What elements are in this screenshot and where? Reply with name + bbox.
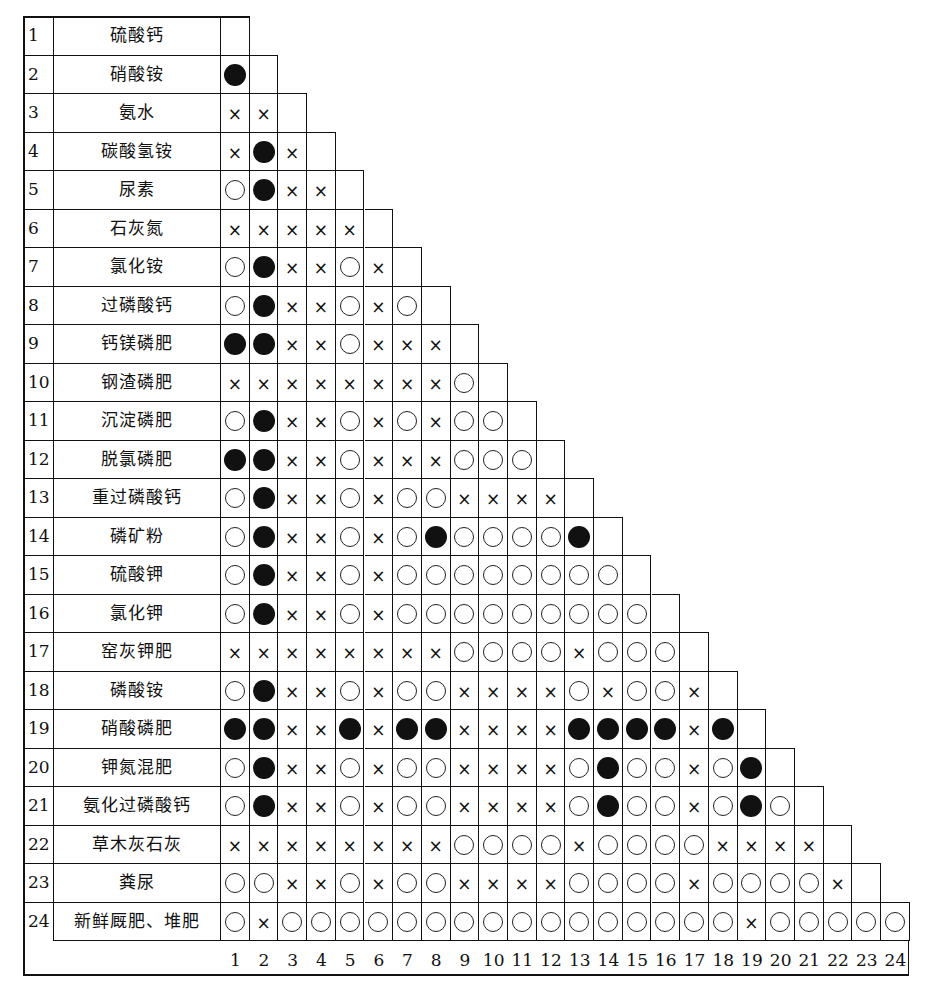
cell-open	[709, 748, 738, 787]
cross-icon: ×	[285, 376, 299, 393]
cell-open	[594, 825, 623, 864]
open-circle-icon	[684, 912, 704, 932]
cross-icon: ×	[256, 222, 270, 239]
open-circle-icon	[483, 527, 503, 547]
cell-cross: ×	[680, 748, 709, 787]
cell-cross: ×	[250, 93, 279, 132]
cross-icon: ×	[371, 722, 385, 739]
cell-filled	[221, 709, 250, 748]
cross-icon: ×	[314, 376, 328, 393]
cell-cross: ×	[365, 478, 394, 517]
cross-icon: ×	[515, 684, 529, 701]
open-circle-icon	[655, 796, 675, 816]
cell-cross: ×	[537, 863, 566, 902]
filled-circle-icon	[712, 718, 734, 740]
cross-icon: ×	[314, 761, 328, 778]
cell-cross: ×	[307, 555, 336, 594]
fertilizer-name: 钙镁磷肥	[54, 324, 221, 363]
cell-blank	[738, 709, 767, 748]
filled-circle-icon	[253, 795, 275, 817]
cell-cross: ×	[336, 363, 365, 402]
cell-open	[623, 671, 652, 710]
cell-filled	[250, 401, 279, 440]
cross-icon: ×	[285, 876, 299, 893]
cell-cross: ×	[307, 709, 336, 748]
cell-open	[221, 170, 250, 209]
cell-open	[221, 517, 250, 556]
open-circle-icon	[340, 912, 360, 932]
cross-icon: ×	[371, 530, 385, 547]
filled-circle-icon	[253, 410, 275, 432]
cell-cross: ×	[508, 786, 537, 825]
cell-cross: ×	[709, 825, 738, 864]
cell-blank	[393, 247, 422, 286]
cross-icon: ×	[371, 568, 385, 585]
cell-cross: ×	[307, 517, 336, 556]
cell-open	[537, 632, 566, 671]
filled-circle-icon	[224, 333, 246, 355]
cross-icon: ×	[285, 568, 299, 585]
cell-open	[479, 902, 508, 941]
cell-filled	[594, 748, 623, 787]
cell-cross: ×	[278, 632, 307, 671]
cross-icon: ×	[716, 838, 730, 855]
cell-open	[479, 825, 508, 864]
cross-icon: ×	[486, 761, 500, 778]
cross-icon: ×	[228, 838, 242, 855]
cross-icon: ×	[400, 838, 414, 855]
cell-open	[451, 632, 480, 671]
open-circle-icon	[655, 873, 675, 893]
cell-open	[393, 401, 422, 440]
cross-icon: ×	[314, 645, 328, 662]
cross-icon: ×	[314, 414, 328, 431]
cell-cross: ×	[307, 209, 336, 248]
open-circle-icon	[655, 758, 675, 778]
cross-icon: ×	[314, 799, 328, 816]
cell-blank	[422, 286, 451, 325]
cross-icon: ×	[572, 838, 586, 855]
cell-cross: ×	[537, 671, 566, 710]
cross-icon: ×	[687, 761, 701, 778]
open-circle-icon	[225, 681, 245, 701]
open-circle-icon	[512, 642, 532, 662]
cell-blank	[766, 748, 795, 787]
open-circle-icon	[483, 411, 503, 431]
cross-icon: ×	[343, 645, 357, 662]
row-number: 5	[25, 170, 54, 209]
cell-blank	[824, 825, 853, 864]
row-number: 22	[25, 825, 54, 864]
cell-cross: ×	[422, 440, 451, 479]
row-number: 17	[25, 632, 54, 671]
open-circle-icon	[569, 796, 589, 816]
cross-icon: ×	[256, 106, 270, 123]
cell-blank	[795, 786, 824, 825]
cell-open	[537, 555, 566, 594]
open-circle-icon	[713, 912, 733, 932]
cell-open	[508, 594, 537, 633]
open-circle-icon	[541, 912, 561, 932]
cell-cross: ×	[365, 709, 394, 748]
cell-open	[336, 286, 365, 325]
cross-icon: ×	[256, 645, 270, 662]
open-circle-icon	[225, 180, 245, 200]
open-circle-icon	[340, 527, 360, 547]
cross-icon: ×	[285, 260, 299, 277]
cross-icon: ×	[744, 915, 758, 932]
cross-icon: ×	[285, 337, 299, 354]
cell-open	[565, 786, 594, 825]
row-number: 14	[25, 517, 54, 556]
cell-cross: ×	[393, 825, 422, 864]
cross-icon: ×	[314, 299, 328, 316]
cross-icon: ×	[285, 414, 299, 431]
cell-cross: ×	[508, 863, 537, 902]
cell-filled	[250, 478, 279, 517]
cell-blank	[278, 93, 307, 132]
filled-circle-icon	[425, 526, 447, 548]
cross-icon: ×	[515, 876, 529, 893]
open-circle-icon	[483, 565, 503, 585]
cell-open	[393, 671, 422, 710]
cross-icon: ×	[285, 491, 299, 508]
column-number: 17	[680, 950, 709, 970]
cell-open	[824, 902, 853, 941]
cell-filled	[623, 709, 652, 748]
